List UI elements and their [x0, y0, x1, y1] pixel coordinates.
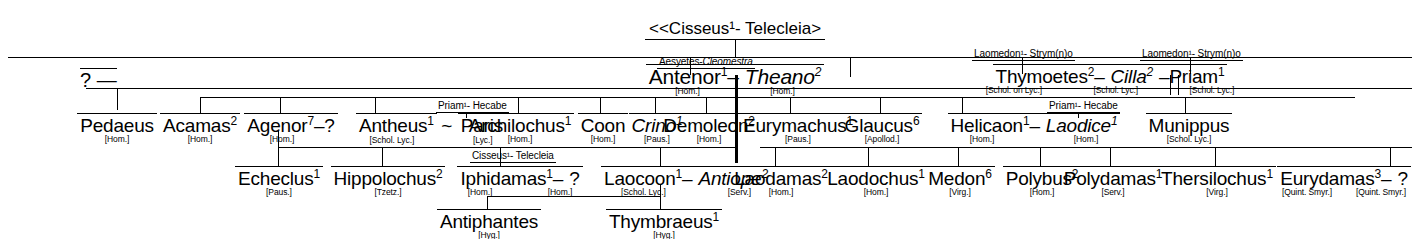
src-coon: [Hom.] [572, 135, 634, 144]
connector-drop-acamas [200, 97, 201, 113]
connector-drop-medon [958, 147, 959, 167]
connector-drop-laodamas [775, 147, 776, 167]
connector-drop-glaucus [880, 97, 881, 113]
src-antheus: [Schol. Lyc.] [369, 136, 414, 145]
node-coon-name: Coon [578, 113, 629, 136]
src-cilla: [Schol. Lyc.] [1093, 86, 1138, 95]
connector-drop-hippolochus [382, 147, 383, 167]
src-medon: [Virg.] [916, 188, 1004, 197]
node-archilochus: Archilochus1 [Hom.] [455, 113, 585, 144]
connector-drop-eurymachus [790, 97, 791, 113]
node-thymbraeus: Thymbraeus1 [Hyg.] [600, 209, 728, 239]
node-priam-link: –Priam1 [1156, 64, 1227, 87]
src-eurydamas: [Quint. Smyr.] [1282, 188, 1332, 197]
connector-drop-pedaeus [117, 88, 118, 110]
node-archilochus-name: Archilochus1 [466, 113, 575, 136]
parents-of-paris: Priam¹- Hecabe [436, 100, 509, 113]
connector-drop-munippus [1185, 97, 1186, 113]
genealogy-chart: <<Cisseus¹- Telecleia> ? — Aesyetes-Cleo… [0, 0, 1420, 239]
connector-drop-thymbraeus [660, 196, 661, 210]
src-antenor: [Hom.] [675, 87, 699, 96]
node-eurydamas: Eurydamas3–? [Quint. Smyr.] [Quint. Smyr… [1270, 166, 1418, 197]
node-iphidamas: Iphidamas1–? [Hom.] [Hom.] [440, 166, 600, 197]
node-acamas-name: Acamas2 [160, 113, 240, 136]
node-thymbraeus-name: Thymbraeus1 [606, 209, 722, 232]
connector-drop-eurydamas-spouse [1390, 147, 1391, 167]
connector-drop-echeclus [278, 147, 279, 167]
node-antheus-name: Antheus1 [356, 113, 437, 136]
node-medon: Medon6 [Virg.] [916, 166, 1004, 197]
parents-of-iphidamas-spouse: Cisseus¹- Telecleia [470, 150, 556, 163]
src-laodice: [Hom.] [1074, 135, 1098, 144]
node-antiphantes-name: Antiphantes [437, 209, 541, 232]
node-hippolochus: Hippolochus2 [Tzetz.] [318, 166, 458, 197]
unknown-left-node: ? — [80, 68, 117, 90]
node-agenor: Agenor7–? [Hom.] [232, 113, 350, 144]
connector-drop-antiphantes [487, 196, 488, 210]
connector-priam-down-2 [1178, 75, 1179, 95]
connector-laocoon-down [660, 184, 661, 196]
node-glaucus-name: Glaucus6 [842, 113, 923, 136]
connector-drop-antheus [375, 97, 376, 113]
node-eurydamas-name: Eurydamas3– [1277, 166, 1394, 189]
node-theano-name: Theano2 [742, 64, 825, 87]
connector-drop-coon [600, 97, 601, 113]
node-helicaon-name: Helicaon1– [948, 113, 1043, 136]
node-iphidamas-name: Iphidamas1– [457, 166, 566, 189]
connector-agenor-down [278, 131, 279, 147]
src-glaucus: [Apollod.] [826, 135, 938, 144]
src-theano: [Hom.] [770, 87, 794, 96]
connector-gen5-bus [487, 196, 661, 197]
node-agenor-name: Agenor7–? [244, 113, 337, 136]
node-pedaeus-name: Pedaeus [77, 113, 157, 136]
connector-drop-agenor [280, 97, 281, 113]
node-eurydamas-spouse: ? [1394, 166, 1410, 189]
node-thymoetes-name: Thymoetes2– [993, 64, 1108, 87]
node-glaucus: Glaucus6 [Apollod.] [826, 113, 938, 144]
node-antenor-name: Antenor1– [646, 64, 742, 87]
src-thersilochus: [Virg.] [1150, 188, 1284, 197]
src-thymbraeus: [Hyg.] [600, 231, 728, 239]
unknown-left-label: ? — [80, 68, 117, 90]
src-helicaon: [Hom.] [970, 135, 994, 144]
parents-of-laodice: Priam¹- Hecabe [1047, 100, 1120, 113]
node-laodochus-name: Laodochus1 [824, 166, 928, 189]
src-priam: [Schol. Lyc.] [1190, 86, 1235, 95]
node-hippolochus-name: Hippolochus2 [331, 166, 446, 189]
node-helicaon-laodice: Helicaon1–Laodice1 [Hom.] [Hom.] [930, 113, 1138, 144]
connector-drop-helicaon [962, 97, 963, 113]
node-coon: Coon [Hom.] [572, 113, 634, 144]
root-label: <<Cisseus¹- Telecleia> [645, 20, 825, 40]
connector-drop-polydamas [1110, 147, 1111, 167]
node-munippus-name: Munippus [1146, 113, 1233, 136]
src-antiphantes: [Hyg.] [425, 231, 553, 239]
node-munippus: Munippus [Schol. Lyc.] [1130, 113, 1248, 144]
node-laocoon-name: Laocoon1– [601, 166, 695, 189]
node-laodice-name: Laodice1 [1043, 113, 1121, 136]
connector-drop-demoleon [706, 97, 707, 113]
connector-priam-down [1170, 75, 1171, 95]
node-cilla-name: Cilla2 [1108, 64, 1156, 87]
node-thymoetes-cilla-priam: Thymoetes2–Cilla2–Priam1 [Schol. on Lyc.… [960, 64, 1260, 95]
src-eurydamas-spouse: [Quint. Smyr.] [1356, 188, 1406, 197]
connector-drop-archilochus [518, 97, 519, 113]
node-echeclus-name: Echeclus1 [235, 166, 323, 189]
connector-gen3-bus [200, 97, 1355, 98]
src-agenor: [Hom.] [214, 135, 350, 144]
node-antiphantes: Antiphantes [Hyg.] [425, 209, 553, 239]
node-medon-name: Medon6 [925, 166, 995, 189]
connector-drop-polybus [1040, 147, 1041, 167]
connector-gen4-bus-right [760, 147, 1412, 148]
connector-drop-laocoon [660, 147, 661, 167]
node-thersilochus: Thersilochus1 [Virg.] [1150, 166, 1284, 197]
src-munippus: [Schol. Lyc.] [1130, 135, 1248, 144]
src-hippolochus: [Tzetz.] [318, 188, 458, 197]
connector-drop-crino [655, 97, 656, 113]
src-thymoetes: [Schol. on Lyc.] [986, 86, 1042, 95]
connector-drop-laodochus [868, 147, 869, 167]
connector-drop-theano [850, 57, 851, 77]
node-iphidamas-spouse: ? [566, 166, 582, 189]
node-thersilochus-name: Thersilochus1 [1158, 166, 1276, 189]
connector-drop-thersilochus [1215, 147, 1216, 167]
src-archilochus: [Hom.] [455, 135, 585, 144]
